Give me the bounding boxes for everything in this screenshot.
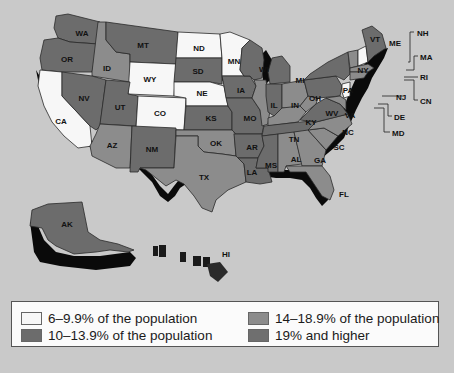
legend-label-6-9: 6–9.9% of the population bbox=[48, 311, 197, 326]
legend-swatch-10-13 bbox=[21, 329, 42, 342]
svg-text:IL: IL bbox=[270, 101, 277, 110]
state-ny bbox=[304, 52, 350, 80]
svg-text:TN: TN bbox=[289, 135, 300, 144]
svg-text:KS: KS bbox=[205, 114, 217, 123]
svg-text:WA: WA bbox=[76, 29, 89, 38]
svg-text:OK: OK bbox=[210, 139, 222, 148]
legend-label-19-plus: 19% and higher bbox=[275, 328, 370, 343]
svg-text:MN: MN bbox=[228, 57, 241, 66]
legend-swatch-14-18 bbox=[248, 312, 269, 325]
svg-text:NY: NY bbox=[357, 66, 369, 75]
svg-text:ID: ID bbox=[103, 64, 111, 73]
svg-text:SC: SC bbox=[333, 143, 344, 152]
svg-text:NV: NV bbox=[78, 94, 90, 103]
state-mi bbox=[268, 56, 290, 84]
svg-text:DE: DE bbox=[394, 113, 406, 122]
legend-label-14-18: 14–18.9% of the population bbox=[275, 311, 439, 326]
state-wi bbox=[240, 40, 264, 80]
svg-text:AR: AR bbox=[246, 143, 258, 152]
legend-item-10-13: 10–13.9% of the population bbox=[21, 328, 212, 342]
svg-text:VT: VT bbox=[370, 35, 380, 44]
svg-text:ME: ME bbox=[389, 39, 402, 48]
svg-text:WY: WY bbox=[144, 75, 158, 84]
svg-text:MT: MT bbox=[137, 41, 149, 50]
legend: 6–9.9% of the population 10–13.9% of the… bbox=[11, 301, 439, 347]
svg-text:WI: WI bbox=[259, 65, 269, 74]
svg-text:CA: CA bbox=[55, 117, 67, 126]
state-hi bbox=[153, 245, 228, 282]
svg-text:NJ: NJ bbox=[396, 93, 406, 102]
svg-text:OR: OR bbox=[61, 55, 73, 64]
svg-text:AZ: AZ bbox=[107, 141, 118, 150]
svg-text:VA: VA bbox=[345, 111, 356, 120]
svg-text:MS: MS bbox=[265, 161, 278, 170]
legend-swatch-19-plus bbox=[248, 329, 269, 342]
svg-text:OH: OH bbox=[309, 94, 321, 103]
svg-text:MI: MI bbox=[296, 76, 305, 85]
svg-text:CO: CO bbox=[154, 109, 166, 118]
svg-text:FL: FL bbox=[339, 190, 349, 199]
svg-text:NE: NE bbox=[196, 89, 208, 98]
svg-text:RI: RI bbox=[420, 73, 428, 82]
svg-text:MO: MO bbox=[244, 114, 257, 123]
svg-text:SD: SD bbox=[192, 67, 203, 76]
svg-text:WV: WV bbox=[326, 109, 340, 118]
svg-text:NM: NM bbox=[146, 145, 159, 154]
svg-text:IN: IN bbox=[291, 101, 299, 110]
legend-swatch-6-9 bbox=[21, 312, 42, 325]
svg-text:TX: TX bbox=[199, 173, 210, 182]
svg-text:ND: ND bbox=[193, 44, 205, 53]
svg-text:UT: UT bbox=[115, 103, 126, 112]
legend-item-19-plus: 19% and higher bbox=[248, 328, 370, 342]
svg-text:AK: AK bbox=[61, 220, 73, 229]
svg-text:IA: IA bbox=[237, 86, 245, 95]
svg-text:KY: KY bbox=[305, 118, 317, 127]
svg-text:NC: NC bbox=[342, 128, 354, 137]
svg-text:MA: MA bbox=[420, 53, 433, 62]
svg-text:NH: NH bbox=[417, 29, 429, 38]
svg-text:PA: PA bbox=[343, 86, 354, 95]
legend-item-14-18: 14–18.9% of the population bbox=[248, 311, 439, 325]
svg-text:GA: GA bbox=[314, 156, 326, 165]
svg-text:LA: LA bbox=[247, 168, 258, 177]
svg-text:MD: MD bbox=[392, 129, 405, 138]
svg-text:AL: AL bbox=[291, 155, 302, 164]
us-map: WA OR CA ID NV MT WY UT AZ CO NM ND SD N… bbox=[0, 0, 454, 300]
legend-label-10-13: 10–13.9% of the population bbox=[48, 328, 212, 343]
svg-text:CN: CN bbox=[420, 97, 432, 106]
svg-text:HI: HI bbox=[222, 250, 230, 259]
legend-item-6-9: 6–9.9% of the population bbox=[21, 311, 197, 325]
